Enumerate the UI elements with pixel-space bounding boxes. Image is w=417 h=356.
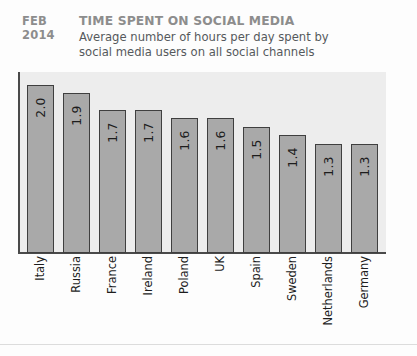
bar-value-label: 1.5 bbox=[249, 139, 264, 159]
bar-value-label: 1.7 bbox=[105, 122, 120, 142]
category-slot: Germany bbox=[350, 256, 378, 334]
bar-series: 2.01.91.71.71.61.61.51.41.31.3 bbox=[18, 72, 386, 253]
infographic-panel: FEB 2014 TIME SPENT ON SOCIAL MEDIA Aver… bbox=[0, 0, 417, 356]
category-slot: Spain bbox=[242, 256, 270, 334]
bar[interactable]: 1.6 bbox=[207, 118, 234, 253]
date-label: FEB 2014 bbox=[0, 14, 76, 42]
category-label: Germany bbox=[359, 256, 370, 308]
bar-value-label: 1.4 bbox=[285, 147, 300, 167]
category-label: UK bbox=[215, 256, 226, 272]
bar-slot: 1.4 bbox=[278, 72, 306, 253]
category-slot: Italy bbox=[26, 256, 54, 334]
subtitle-line-1: Average number of hours per day spent by bbox=[79, 30, 417, 45]
bar-slot: 1.5 bbox=[242, 72, 270, 253]
bar-value-label: 1.3 bbox=[321, 156, 336, 176]
bar-slot: 1.9 bbox=[62, 72, 90, 253]
bar[interactable]: 1.7 bbox=[99, 110, 126, 253]
bar-slot: 1.3 bbox=[350, 72, 378, 253]
bar-value-label: 1.7 bbox=[141, 122, 156, 142]
date-year: 2014 bbox=[22, 28, 76, 42]
plot-area: 2.01.91.71.71.61.61.51.41.31.3 bbox=[18, 72, 386, 254]
bar[interactable]: 1.5 bbox=[243, 127, 270, 253]
bar-value-label: 1.9 bbox=[69, 105, 84, 125]
category-slot: Netherlands bbox=[314, 256, 342, 334]
category-slot: Ireland bbox=[134, 256, 162, 334]
date-month: FEB bbox=[22, 14, 76, 28]
bar[interactable]: 1.9 bbox=[63, 93, 90, 253]
bottom-divider bbox=[0, 344, 417, 345]
category-label: Sweden bbox=[287, 256, 298, 301]
title-block: TIME SPENT ON SOCIAL MEDIA Average numbe… bbox=[76, 14, 417, 59]
bar-value-label: 2.0 bbox=[33, 97, 48, 117]
bar-slot: 1.6 bbox=[206, 72, 234, 253]
chart-header: FEB 2014 TIME SPENT ON SOCIAL MEDIA Aver… bbox=[0, 14, 417, 66]
category-slot: UK bbox=[206, 256, 234, 334]
bar-slot: 1.7 bbox=[134, 72, 162, 253]
subtitle-line-2: social media users on all social channel… bbox=[79, 45, 417, 60]
bar[interactable]: 1.7 bbox=[135, 110, 162, 253]
x-axis-labels: ItalyRussiaFranceIrelandPolandUKSpainSwe… bbox=[18, 256, 386, 334]
category-label: Italy bbox=[35, 256, 46, 281]
category-slot: Russia bbox=[62, 256, 90, 334]
bar[interactable]: 1.6 bbox=[171, 118, 198, 253]
bar-value-label: 1.6 bbox=[213, 131, 228, 151]
category-label: Russia bbox=[71, 256, 82, 293]
bar-value-label: 1.6 bbox=[177, 131, 192, 151]
category-label: Spain bbox=[251, 256, 262, 288]
bar[interactable]: 1.4 bbox=[279, 135, 306, 253]
category-slot: Sweden bbox=[278, 256, 306, 334]
page-title: TIME SPENT ON SOCIAL MEDIA bbox=[79, 14, 417, 29]
bar[interactable]: 1.3 bbox=[351, 144, 378, 253]
category-label: Ireland bbox=[143, 256, 154, 295]
category-slot: France bbox=[98, 256, 126, 334]
category-slot: Poland bbox=[170, 256, 198, 334]
bar-value-label: 1.3 bbox=[357, 156, 372, 176]
category-label: Netherlands bbox=[323, 256, 334, 325]
bar-slot: 1.6 bbox=[170, 72, 198, 253]
bar[interactable]: 2.0 bbox=[27, 85, 54, 253]
bar[interactable]: 1.3 bbox=[315, 144, 342, 253]
category-label: France bbox=[107, 256, 118, 294]
bar-slot: 2.0 bbox=[26, 72, 54, 253]
category-label: Poland bbox=[179, 256, 190, 294]
bar-slot: 1.7 bbox=[98, 72, 126, 253]
chart-subtitle: Average number of hours per day spent by… bbox=[79, 30, 417, 59]
bar-slot: 1.3 bbox=[314, 72, 342, 253]
